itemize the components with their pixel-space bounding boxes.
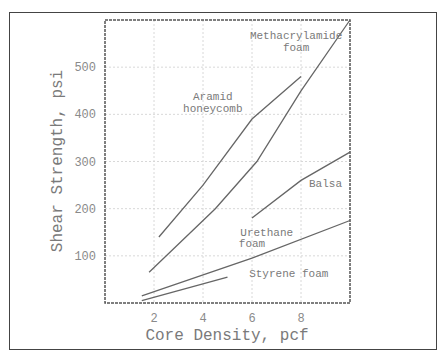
annotation-label: Methacrylamide: [250, 30, 342, 42]
y-tick-label: 100: [74, 250, 96, 264]
annotation-label: Urethane: [240, 227, 293, 239]
annotation-label: foam: [283, 42, 310, 54]
grid: [105, 20, 350, 303]
y-tick-label: 300: [74, 156, 96, 170]
annotation-label: Balsa: [309, 178, 342, 190]
y-tick-label: 200: [74, 203, 96, 217]
annotation-label: Aramid: [193, 91, 233, 103]
y-axis-ticks: 100200300400500: [74, 61, 96, 264]
x-tick-label: 8: [297, 312, 304, 326]
annotation-label: Styrene foam: [249, 268, 329, 280]
x-tick-label: 6: [248, 312, 255, 326]
annotation-label: foam: [239, 238, 266, 250]
y-tick-label: 400: [74, 108, 96, 122]
x-axis-ticks: 2468: [150, 312, 304, 326]
x-tick-label: 2: [150, 312, 157, 326]
y-axis-label: Shear Strength, psi: [49, 70, 67, 252]
annotation-label: honeycomb: [183, 103, 242, 115]
series-lines: [142, 20, 350, 301]
y-tick-label: 500: [74, 61, 96, 75]
shear-strength-chart: 2468 100200300400500 MethacrylamidefoamA…: [0, 0, 443, 360]
x-axis-label: Core Density, pcf: [145, 327, 308, 345]
x-tick-label: 4: [199, 312, 206, 326]
